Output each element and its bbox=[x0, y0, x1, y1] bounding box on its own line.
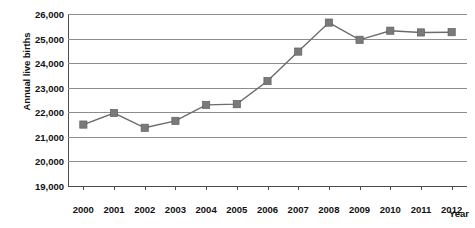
x-axis-tick-label: 2006 bbox=[257, 204, 278, 215]
y-axis-tick-label: 22,000 bbox=[35, 107, 64, 118]
x-axis-tick-mark bbox=[114, 186, 115, 190]
data-point-marker bbox=[356, 36, 363, 43]
series-line bbox=[83, 23, 451, 128]
data-point-marker bbox=[448, 29, 455, 36]
data-point-marker bbox=[80, 121, 87, 128]
data-point-marker bbox=[172, 117, 179, 124]
y-axis-tick-label: 24,000 bbox=[35, 58, 64, 69]
x-axis-tick-mark bbox=[360, 186, 361, 190]
data-point-marker bbox=[387, 27, 394, 34]
x-axis-tick-mark bbox=[298, 186, 299, 190]
x-axis-tick-mark bbox=[390, 186, 391, 190]
x-axis-tick-mark bbox=[452, 186, 453, 190]
data-point-marker bbox=[295, 48, 302, 55]
x-axis-tick-label: 2002 bbox=[134, 204, 155, 215]
y-axis-tick-label: 19,000 bbox=[35, 181, 64, 192]
data-point-marker bbox=[325, 19, 332, 26]
x-axis-tick-label: 2004 bbox=[196, 204, 217, 215]
x-axis-tick-label: 2007 bbox=[288, 204, 309, 215]
data-point-marker bbox=[417, 29, 424, 36]
x-axis-tick-label: 2009 bbox=[349, 204, 370, 215]
x-axis-tick-mark bbox=[237, 186, 238, 190]
y-axis-tick-label: 23,000 bbox=[35, 82, 64, 93]
y-axis-tick-label: 25,000 bbox=[35, 33, 64, 44]
series-layer bbox=[68, 14, 467, 186]
line-chart: Annual live births 26,00025,00024,00023,… bbox=[0, 0, 475, 228]
x-axis-title: Year bbox=[449, 208, 469, 219]
data-point-marker bbox=[141, 124, 148, 131]
x-axis-tick-mark bbox=[145, 186, 146, 190]
data-point-marker bbox=[264, 77, 271, 84]
y-axis-tick-labels: 26,00025,00024,00023,00022,00021,00020,0… bbox=[18, 0, 64, 228]
data-point-marker bbox=[203, 101, 210, 108]
x-axis-tick-label: 2000 bbox=[73, 204, 94, 215]
x-axis-tick-label: 2001 bbox=[103, 204, 124, 215]
x-axis-tick-label: 2010 bbox=[380, 204, 401, 215]
x-axis-tick-mark bbox=[206, 186, 207, 190]
x-axis-tick-mark bbox=[268, 186, 269, 190]
x-axis-tick-label: 2005 bbox=[226, 204, 247, 215]
y-axis-tick-label: 26,000 bbox=[35, 9, 64, 20]
x-axis-tick-label: 2011 bbox=[411, 204, 432, 215]
x-axis-tick-label: 2003 bbox=[165, 204, 186, 215]
data-point-marker bbox=[233, 101, 240, 108]
y-axis-tick-label: 20,000 bbox=[35, 156, 64, 167]
x-axis-tick-mark bbox=[421, 186, 422, 190]
x-axis-tick-label: 2008 bbox=[318, 204, 339, 215]
x-axis-tick-mark bbox=[83, 186, 84, 190]
plot-area: 2000200120022003200420052006200720082009… bbox=[68, 14, 467, 186]
y-axis-tick-label: 21,000 bbox=[35, 131, 64, 142]
data-point-marker bbox=[110, 109, 117, 116]
x-axis-tick-mark bbox=[329, 186, 330, 190]
x-axis-tick-mark bbox=[175, 186, 176, 190]
